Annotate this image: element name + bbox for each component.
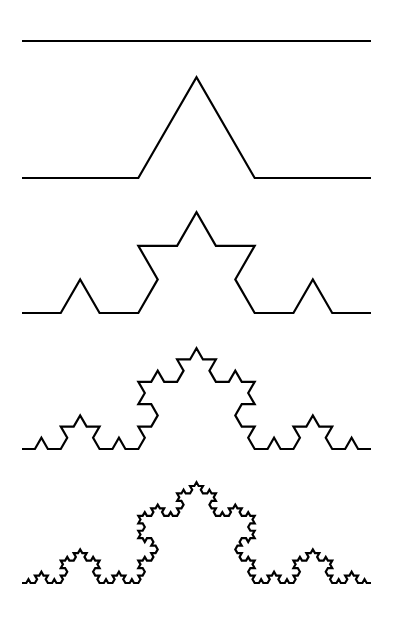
koch-curve-figure (0, 0, 396, 623)
figure-background (0, 0, 396, 623)
koch-curve-canvas (0, 0, 396, 623)
